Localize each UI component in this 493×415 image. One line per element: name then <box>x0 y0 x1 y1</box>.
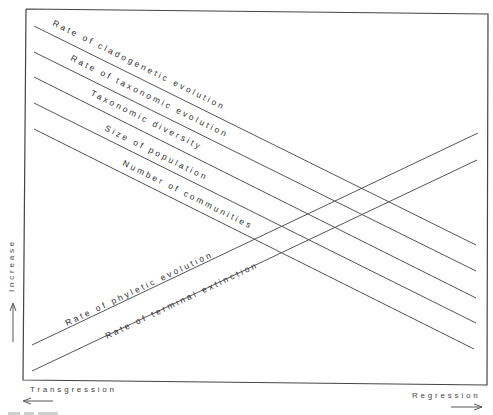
arrow-left-icon <box>23 398 53 404</box>
line-taxonomic-evolution <box>34 52 476 271</box>
y-axis-label: Increase <box>7 239 16 292</box>
x-axis-right-label: Regression <box>412 391 480 400</box>
arrow-right-icon <box>451 404 482 410</box>
diagram-canvas: Rate of cladogenetic evolution Rate of t… <box>0 0 493 415</box>
x-axis-left-label: Transgression <box>30 385 117 394</box>
arrow-up-icon <box>10 303 16 342</box>
